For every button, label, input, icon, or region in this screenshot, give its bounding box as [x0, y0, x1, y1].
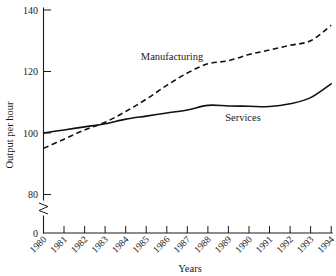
x-tick-label: 1994 — [316, 234, 336, 255]
series-line-services — [44, 84, 332, 133]
series-label-services: Services — [225, 112, 261, 123]
x-tick-label: 1984 — [110, 234, 131, 255]
x-tick-label: 1988 — [192, 234, 213, 255]
series-line-manufacturing — [44, 25, 332, 148]
x-tick-label: 1987 — [172, 234, 193, 255]
x-tick-label: 1981 — [48, 234, 69, 255]
x-tick-label: 1986 — [151, 234, 172, 255]
x-tick-label: 1992 — [275, 234, 296, 255]
x-tick-label: 1991 — [254, 234, 275, 255]
x-tick-label: 1982 — [69, 234, 90, 255]
x-axis-title: Years — [178, 263, 201, 274]
chart-container: 140 120 100 80 0 Output per hour 1980 1 — [0, 0, 336, 276]
x-tick-label: 1980 — [28, 234, 49, 255]
y-tick-label: 120 — [23, 66, 38, 77]
line-chart: 140 120 100 80 0 Output per hour 1980 1 — [0, 0, 336, 276]
y-tick-marks — [44, 10, 52, 195]
y-tick-label: 140 — [23, 5, 38, 16]
y-tick-label: 100 — [23, 128, 38, 139]
x-tick-label: 1983 — [90, 234, 111, 255]
series-label-manufacturing: Manufacturing — [141, 51, 204, 62]
y-axis-break-icon — [39, 203, 48, 214]
x-tick-label: 1993 — [295, 234, 316, 255]
y-tick-label: 80 — [28, 189, 38, 200]
y-axis-title: Output per hour — [4, 101, 15, 169]
x-tick-marks — [44, 226, 332, 233]
x-tick-label: 1985 — [131, 234, 152, 255]
y-tick-label: 0 — [33, 228, 38, 239]
x-tick-label: 1989 — [213, 234, 234, 255]
x-tick-label: 1990 — [233, 234, 254, 255]
